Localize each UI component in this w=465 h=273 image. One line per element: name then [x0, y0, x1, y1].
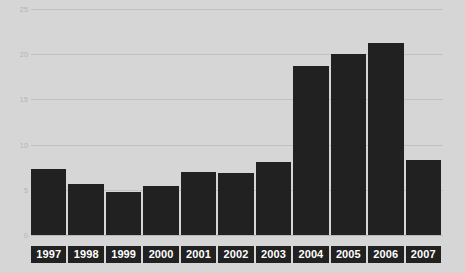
x-axis-tick-label-2003[interactable]: 2003: [256, 246, 291, 263]
y-axis-tick-label: 0: [14, 232, 28, 239]
x-axis-tick-label-2007[interactable]: 2007: [406, 246, 441, 263]
bar-2000[interactable]: [143, 186, 178, 235]
bar-2006[interactable]: [368, 43, 403, 235]
x-axis-tick-label-2004[interactable]: 2004: [293, 246, 328, 263]
y-axis-tick-label: 10: [14, 142, 28, 149]
bar-1998[interactable]: [68, 184, 103, 235]
y-axis-tick-label: 20: [14, 51, 28, 58]
x-axis-tick-label-1998[interactable]: 1998: [68, 246, 103, 263]
bar-2005[interactable]: [331, 54, 366, 235]
y-axis-tick-label: 25: [14, 6, 28, 13]
x-axis-tick-label-1999[interactable]: 1999: [106, 246, 141, 263]
x-axis-tick-label-2006[interactable]: 2006: [368, 246, 403, 263]
y-axis-tick-label: 5: [14, 187, 28, 194]
bar-2003[interactable]: [256, 162, 291, 235]
gridline: [31, 9, 443, 10]
x-axis-tick-label-2000[interactable]: 2000: [143, 246, 178, 263]
bar-2007[interactable]: [406, 160, 441, 235]
x-axis-tick-label-1997[interactable]: 1997: [31, 246, 66, 263]
y-axis-tick-label: 15: [14, 96, 28, 103]
bar-1999[interactable]: [106, 192, 141, 235]
x-axis-tick-label-2001[interactable]: 2001: [181, 246, 216, 263]
plot-area: 0510152025199719981999200020012002200320…: [0, 0, 465, 273]
x-axis-tick-label-2002[interactable]: 2002: [218, 246, 253, 263]
bar-1997[interactable]: [31, 169, 66, 235]
axis-baseline: [31, 235, 443, 236]
bar-2002[interactable]: [218, 173, 253, 235]
x-axis-tick-label-2005[interactable]: 2005: [331, 246, 366, 263]
bar-chart: 0510152025199719981999200020012002200320…: [0, 0, 465, 273]
bar-2004[interactable]: [293, 66, 328, 235]
bar-2001[interactable]: [181, 172, 216, 235]
